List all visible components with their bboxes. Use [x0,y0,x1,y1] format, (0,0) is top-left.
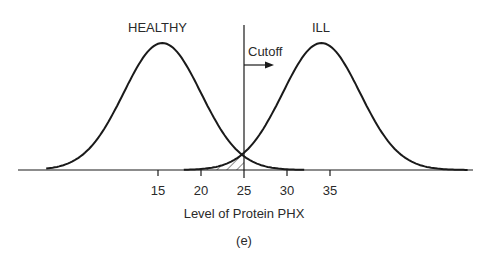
x-axis-label: Level of Protein PHX [184,206,305,221]
ill-curve [184,43,468,170]
ill-label: ILL [312,20,330,35]
arrow-head-icon [265,62,274,69]
tick-label-15: 15 [151,183,165,198]
healthy-label: HEALTHY [128,20,187,35]
cutoff-label: Cutoff [248,44,282,59]
tick-label-20: 20 [194,183,208,198]
chart-canvas [0,0,495,267]
tick-label-35: 35 [323,183,337,198]
figure-caption: (e) [236,233,252,248]
tick-label-30: 30 [280,183,294,198]
tick-label-25: 25 [237,183,251,198]
